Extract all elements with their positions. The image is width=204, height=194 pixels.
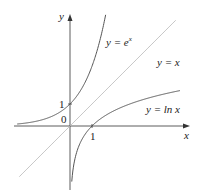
x-axis-arrow-icon bbox=[183, 124, 190, 129]
x-tick-label-1: 1 bbox=[90, 130, 96, 142]
series-label-ln: y = ln x bbox=[145, 103, 180, 115]
series-label-exp: y = ex bbox=[105, 35, 133, 48]
series-label-exp-text: y = e bbox=[105, 36, 129, 48]
series-label-identity: y = x bbox=[156, 56, 180, 68]
chart: y x 0 1 1 y = ex y = x y = ln x bbox=[0, 0, 204, 194]
series-identity-line bbox=[19, 20, 175, 176]
series-label-exp-sup: x bbox=[128, 35, 133, 43]
x-axis-label: x bbox=[183, 129, 189, 141]
y-axis-arrow-icon bbox=[68, 14, 73, 21]
y-axis-label: y bbox=[58, 10, 64, 22]
y-tick-label-1: 1 bbox=[59, 98, 65, 110]
origin-label: 0 bbox=[61, 113, 67, 125]
